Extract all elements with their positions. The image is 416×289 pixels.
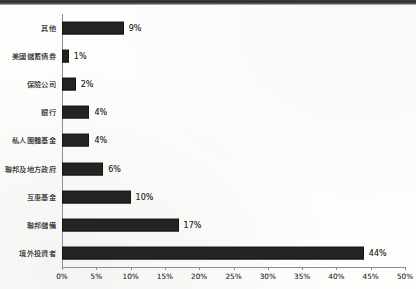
x-axis-tick-label: 0% bbox=[56, 272, 68, 281]
bar-value-label: 17% bbox=[184, 220, 202, 229]
bar-row: 保險公司2% bbox=[62, 70, 405, 98]
bar bbox=[62, 78, 76, 91]
bar-row: 銀行4% bbox=[62, 98, 405, 126]
x-axis-tick-label: 50% bbox=[397, 272, 413, 281]
bar-value-label: 6% bbox=[108, 164, 121, 173]
x-axis-tick-label: 35% bbox=[294, 272, 310, 281]
scan-artifact-top-band bbox=[0, 0, 416, 5]
bar-value-label: 2% bbox=[81, 80, 94, 89]
bar bbox=[62, 246, 364, 259]
x-axis-tick-label: 10% bbox=[122, 272, 138, 281]
category-label: 銀行 bbox=[41, 107, 56, 117]
bar bbox=[62, 190, 131, 203]
x-axis-tick-label: 20% bbox=[191, 272, 207, 281]
category-label: 聯邦及地方政府 bbox=[5, 164, 56, 174]
bar-row: 聯邦儲備17% bbox=[62, 211, 405, 239]
x-axis-tick-mark bbox=[302, 267, 303, 270]
bar bbox=[62, 218, 179, 231]
x-axis-tick-mark bbox=[371, 267, 372, 270]
category-label: 私人團體基金 bbox=[12, 135, 56, 145]
x-axis-tick-label: 15% bbox=[157, 272, 173, 281]
x-axis-tick-label: 40% bbox=[328, 272, 344, 281]
bar-value-label: 9% bbox=[129, 24, 142, 33]
bar-row: 境外投資者44% bbox=[62, 239, 405, 267]
bar-row: 私人團體基金4% bbox=[62, 126, 405, 154]
bar-value-label: 10% bbox=[136, 192, 154, 201]
x-axis-tick-label: 30% bbox=[260, 272, 276, 281]
x-axis-tick-mark bbox=[268, 267, 269, 270]
plot-area: 其他9%美國儲蓄債券1%保險公司2%銀行4%私人團體基金4%聯邦及地方政府6%互… bbox=[62, 14, 405, 267]
x-axis-tick-mark bbox=[199, 267, 200, 270]
x-axis-tick-label: 25% bbox=[225, 272, 241, 281]
bar bbox=[62, 106, 89, 119]
x-axis-tick-mark bbox=[165, 267, 166, 270]
x-axis-tick-label: 45% bbox=[363, 272, 379, 281]
bar bbox=[62, 22, 124, 35]
x-axis-tick-mark bbox=[62, 267, 63, 270]
category-label: 聯邦儲備 bbox=[27, 220, 56, 230]
category-label: 保險公司 bbox=[27, 79, 56, 89]
x-axis-tick-mark bbox=[405, 267, 406, 270]
bar-row: 其他9% bbox=[62, 14, 405, 42]
bar bbox=[62, 162, 103, 175]
bar bbox=[62, 50, 69, 63]
bar-row: 互惠基金10% bbox=[62, 183, 405, 211]
category-label: 境外投資者 bbox=[19, 248, 56, 258]
x-axis-tick-mark bbox=[131, 267, 132, 270]
x-axis-tick-label: 5% bbox=[91, 272, 103, 281]
x-axis-tick-mark bbox=[96, 267, 97, 270]
category-label: 互惠基金 bbox=[27, 192, 56, 202]
bar-value-label: 44% bbox=[369, 248, 387, 257]
bar bbox=[62, 134, 89, 147]
bar-value-label: 1% bbox=[74, 52, 87, 61]
bar-row: 美國儲蓄債券1% bbox=[62, 42, 405, 70]
x-axis-tick-mark bbox=[336, 267, 337, 270]
bar-row: 聯邦及地方政府6% bbox=[62, 155, 405, 183]
category-label: 其他 bbox=[41, 23, 56, 33]
x-axis-tick-mark bbox=[234, 267, 235, 270]
bar-value-label: 4% bbox=[94, 108, 107, 117]
bar-chart: 其他9%美國儲蓄債券1%保險公司2%銀行4%私人團體基金4%聯邦及地方政府6%互… bbox=[0, 0, 416, 289]
bar-value-label: 4% bbox=[94, 136, 107, 145]
category-label: 美國儲蓄債券 bbox=[12, 51, 56, 61]
